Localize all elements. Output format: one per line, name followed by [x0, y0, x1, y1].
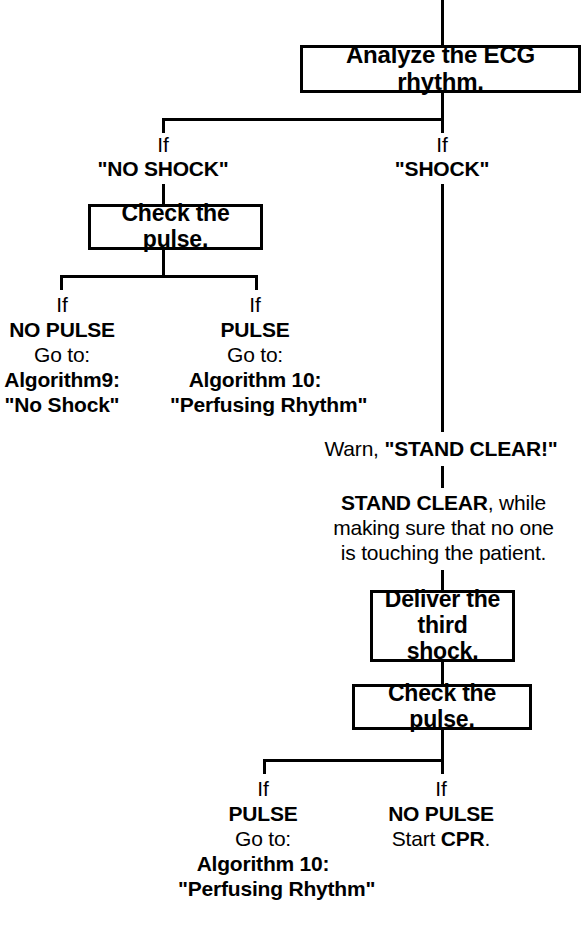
- node-analyze-ecg: Analyze the ECG rhythm.: [300, 45, 581, 93]
- flowchart-canvas: Analyze the ECG rhythm. If "NO SHOCK" If…: [0, 0, 581, 937]
- connector-drop-shock: [441, 118, 444, 133]
- connector-split-pulse-bar-bottom: [263, 759, 444, 762]
- node-analyze-ecg-label: Analyze the ECG rhythm.: [303, 42, 578, 96]
- outcome-no-pulse-left-if: If: [12, 293, 112, 317]
- connector-analyze-down: [441, 93, 444, 121]
- instruction-warn-strong: "STAND CLEAR!": [384, 437, 557, 460]
- instruction-stand-clear-line2: making sure that no one: [311, 516, 576, 540]
- outcome-no-pulse-bottom-state: NO PULSE: [381, 802, 501, 826]
- connector-warn-to-stand-clear: [441, 466, 444, 488]
- outcome-pulse-bottom-algorithm-name: "Perfusing Rhythm": [178, 877, 348, 901]
- connector-drop-no-pulse-left: [60, 275, 63, 290]
- connector-split-shock-bar: [162, 118, 444, 121]
- instruction-stand-clear-strong: STAND CLEAR: [341, 491, 488, 514]
- outcome-pulse-left-goto: Go to:: [205, 343, 305, 367]
- outcome-no-pulse-bottom-if: If: [391, 777, 491, 801]
- connector-check-pulse-bottom-down: [441, 730, 444, 762]
- node-check-pulse-bottom-label: Check the pulse.: [355, 681, 529, 733]
- connector-shock-trunk: [441, 184, 444, 432]
- connector-check-pulse-left-down: [162, 250, 165, 278]
- outcome-pulse-left-state: PULSE: [205, 318, 305, 342]
- branch-no-shock-condition: "NO SHOCK": [93, 157, 233, 181]
- instruction-stand-clear-line3: is touching the patient.: [311, 541, 576, 565]
- outcome-pulse-left-algorithm-name: "Perfusing Rhythm": [170, 393, 340, 417]
- branch-no-shock-if: If: [113, 133, 213, 157]
- outcome-no-pulse-bottom-action-strong: CPR: [441, 827, 485, 850]
- outcome-no-pulse-left-state: NO PULSE: [2, 318, 122, 342]
- outcome-no-pulse-bottom-action-suffix: .: [485, 827, 491, 850]
- connector-drop-pulse-left: [255, 275, 258, 290]
- outcome-pulse-bottom-algorithm: Algorithm 10:: [193, 852, 333, 876]
- node-check-pulse-left: Check the pulse.: [88, 204, 263, 250]
- outcome-pulse-bottom-if: If: [213, 777, 313, 801]
- node-deliver-third-shock-line1: Deliver the: [379, 587, 506, 613]
- instruction-stand-clear-line1: STAND CLEAR, while: [321, 491, 566, 515]
- instruction-warn-stand-clear: Warn, "STAND CLEAR!": [311, 437, 571, 461]
- outcome-pulse-left-if: If: [205, 293, 305, 317]
- outcome-no-pulse-bottom-action: Start CPR.: [381, 827, 501, 851]
- node-deliver-third-shock: Deliver the third shock.: [370, 590, 515, 662]
- instruction-stand-clear-rest: , while: [488, 491, 546, 514]
- node-check-pulse-left-label: Check the pulse.: [91, 201, 260, 253]
- node-deliver-third-shock-line2: third shock.: [373, 613, 512, 665]
- outcome-no-pulse-bottom-action-prefix: Start: [392, 827, 441, 850]
- connector-top-stem: [441, 0, 444, 45]
- connector-drop-no-pulse-bottom: [441, 759, 444, 774]
- outcome-no-pulse-left-algorithm-name: "No Shock": [2, 393, 122, 417]
- connector-drop-no-shock: [162, 118, 165, 133]
- outcome-pulse-left-algorithm: Algorithm 10:: [185, 368, 325, 392]
- outcome-no-pulse-left-goto: Go to:: [12, 343, 112, 367]
- branch-shock-if: If: [392, 133, 492, 157]
- connector-split-pulse-bar-left: [60, 275, 258, 278]
- outcome-no-pulse-left-algorithm: Algorithm9:: [2, 368, 122, 392]
- outcome-pulse-bottom-goto: Go to:: [213, 827, 313, 851]
- instruction-warn-prefix: Warn,: [325, 437, 385, 460]
- connector-drop-pulse-bottom: [263, 759, 266, 774]
- node-check-pulse-bottom: Check the pulse.: [352, 684, 532, 730]
- outcome-pulse-bottom-state: PULSE: [213, 802, 313, 826]
- branch-shock-condition: "SHOCK": [382, 157, 502, 181]
